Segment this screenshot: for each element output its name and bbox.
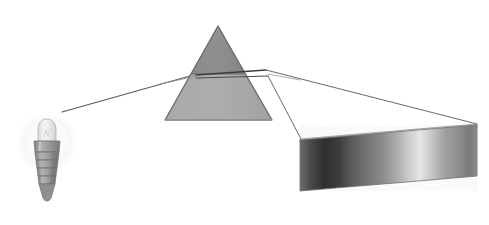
refracted-ray-lower [268,76,301,139]
bulb-base-tip [39,184,55,201]
spectrum-band-group [300,124,477,191]
prism-lower-face [165,74,272,120]
prism-dispersion-scene [0,0,489,225]
bulb-glass-icon [38,119,56,141]
bulb-collar [34,141,60,152]
diagram-canvas [0,0,489,225]
light-bulb-group [14,110,80,201]
prism-upper-face [191,26,245,74]
bulb-screw-base [35,152,59,201]
spectrum-band-face [300,125,477,191]
refracted-ray-upper [266,70,477,124]
